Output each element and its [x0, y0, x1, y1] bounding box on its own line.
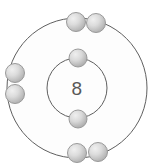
atom-svg-canvas — [0, 0, 154, 167]
electron-inner-bottom — [69, 110, 87, 128]
electron-outer-top-right — [87, 14, 106, 33]
bohr-atom-diagram: 8 — [0, 0, 154, 167]
electron-outer-bottom-left — [68, 144, 87, 163]
electron-outer-bottom-right — [89, 143, 108, 162]
electron-inner-top — [69, 49, 87, 67]
electron-outer-left-upper — [6, 64, 25, 83]
electron-outer-top-left — [67, 13, 86, 32]
electron-outer-left-lower — [6, 85, 25, 104]
